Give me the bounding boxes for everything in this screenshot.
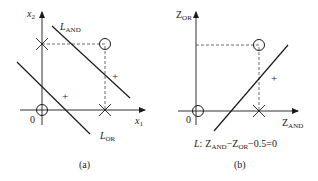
plus-sign-b: + — [271, 72, 277, 84]
caption-a: (a) — [79, 159, 90, 171]
caption-b: (b) — [234, 159, 246, 171]
line-l — [214, 45, 288, 131]
dashed-guide-b — [196, 45, 259, 111]
origin-label-b: 0 — [186, 114, 191, 125]
dashed-guide-a — [42, 44, 105, 110]
line-or-label: LOR — [99, 130, 116, 143]
line-or — [17, 62, 90, 134]
zand-label: ZAND — [282, 117, 303, 130]
line-and — [52, 26, 130, 98]
origin-label-a: 0 — [30, 114, 35, 125]
x2-label: x2 — [26, 8, 35, 21]
diagram-canvas: x2 x1 0 LAND LOR + + (a) ZOR ZAND 0 + L:… — [0, 0, 318, 181]
x1-label: x1 — [134, 115, 143, 128]
plus-sign-a-2: + — [62, 90, 68, 102]
panel-b: ZOR ZAND 0 + L:ZAND−ZOR−0.5=0 (b) — [176, 9, 303, 171]
line-and-label: LAND — [59, 21, 81, 34]
panel-a: x2 x1 0 LAND LOR + + (a) — [17, 8, 145, 171]
zor-label: ZOR — [176, 9, 192, 22]
plus-sign-a-1: + — [112, 70, 118, 82]
equation-l: L:ZAND−ZOR−0.5=0 — [193, 138, 277, 151]
